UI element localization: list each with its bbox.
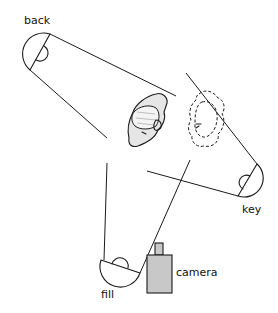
dashed-head-inner — [195, 102, 217, 137]
camera: camera — [147, 243, 218, 293]
lighting-diagram: back key fill camera — [0, 0, 278, 313]
dashed-head-mark — [196, 124, 201, 128]
key-light-label: key — [242, 203, 262, 216]
key-light: key — [147, 73, 263, 216]
fill-beam-left — [104, 163, 107, 260]
back-light-label: back — [24, 14, 51, 27]
back-light-reflector-icon — [23, 33, 50, 70]
key-beam-upper — [186, 73, 257, 164]
fill-light: fill — [100, 160, 190, 301]
camera-viewfinder-icon — [155, 243, 163, 255]
camera-label: camera — [176, 266, 218, 279]
back-beam-upper — [50, 34, 176, 96]
subject-head — [128, 94, 167, 147]
fill-light-label: fill — [101, 288, 114, 301]
key-beam-lower — [147, 171, 238, 196]
key-light-bulb-icon — [239, 175, 250, 189]
back-beam-lower — [30, 70, 107, 138]
camera-body-icon — [147, 255, 172, 293]
fill-light-reflector-icon — [100, 260, 140, 287]
key-light-reflector-icon — [238, 164, 263, 197]
